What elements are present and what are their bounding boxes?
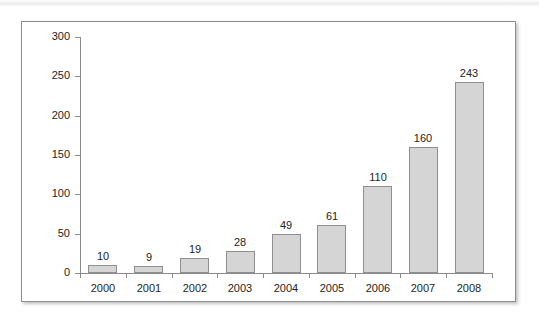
x-axis-tick	[355, 273, 356, 278]
x-axis-line	[80, 273, 492, 274]
x-axis-tick	[263, 273, 264, 278]
bar-chart-plot-area: 050100150200250300 200020012002200320042…	[22, 22, 517, 303]
bar	[409, 147, 438, 273]
chart-figure-frame: 050100150200250300 200020012002200320042…	[21, 21, 516, 302]
bar-value-label: 61	[309, 210, 355, 222]
y-axis-tick-label-wrap: 250	[22, 70, 80, 81]
y-axis-tick-label: 300	[24, 31, 70, 42]
bar-value-label: 49	[263, 219, 309, 231]
bar	[455, 82, 484, 273]
x-axis-tick	[309, 273, 310, 278]
x-axis-category-label: 2004	[263, 281, 309, 295]
x-axis-tick	[400, 273, 401, 278]
y-axis-tick-label-wrap: 0	[22, 267, 80, 278]
bar-value-label: 10	[80, 250, 126, 262]
x-axis-category-label: 2001	[126, 281, 172, 295]
x-axis-category-label: 2003	[217, 281, 263, 295]
y-axis-tick-label-wrap: 50	[22, 228, 80, 239]
y-axis-line	[80, 37, 81, 274]
y-axis-tick-label: 50	[24, 228, 70, 239]
x-axis-tick	[217, 273, 218, 278]
y-axis-tick-label-wrap: 100	[22, 188, 80, 199]
x-axis-tick	[80, 273, 81, 278]
y-axis-tick-label-wrap: 300	[22, 31, 80, 42]
x-axis-category-label: 2002	[172, 281, 218, 295]
bar-value-label: 160	[400, 132, 446, 144]
bar	[180, 258, 209, 273]
x-axis-tick	[126, 273, 127, 278]
bar	[363, 186, 392, 273]
y-axis-tick-label: 200	[24, 110, 70, 121]
x-axis-category-label: 2005	[309, 281, 355, 295]
y-axis-tick-label: 100	[24, 188, 70, 199]
x-axis-tick	[492, 273, 493, 278]
bar	[317, 225, 346, 273]
y-axis-tick-label-wrap: 150	[22, 149, 80, 160]
x-axis-tick	[446, 273, 447, 278]
bar-value-label: 19	[172, 243, 218, 255]
y-axis-tick-label: 150	[24, 149, 70, 160]
bar	[134, 266, 163, 273]
bar	[272, 234, 301, 273]
bar	[226, 251, 255, 273]
y-axis-tick-label: 250	[24, 70, 70, 81]
bar-value-label: 9	[126, 251, 172, 263]
x-axis-category-label: 2008	[446, 281, 492, 295]
x-axis-category-label: 2006	[355, 281, 401, 295]
bar-value-label: 110	[355, 171, 401, 183]
bar-value-label: 243	[446, 67, 492, 79]
x-axis-tick	[172, 273, 173, 278]
y-axis-tick-label: 0	[24, 267, 70, 278]
x-axis-category-label: 2000	[80, 281, 126, 295]
bar	[88, 265, 117, 273]
x-axis-category-label: 2007	[400, 281, 446, 295]
bar-value-label: 28	[217, 236, 263, 248]
scan-artifact-strip	[0, 0, 539, 6]
y-axis-tick-label-wrap: 200	[22, 110, 80, 121]
